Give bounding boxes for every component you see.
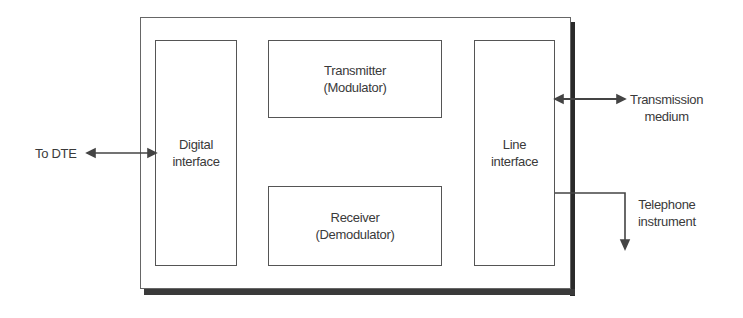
telephone-connector-line (555, 193, 625, 242)
connector-layer (0, 0, 743, 318)
telephone-instrument-label: Telephone instrument (638, 196, 696, 230)
transmission-medium-label: Transmission medium (630, 91, 703, 125)
arrowhead-left-icon (87, 149, 95, 157)
dte-label: To DTE (35, 145, 77, 162)
arrowhead-right-icon (148, 149, 156, 157)
arrowhead-down-icon (621, 240, 629, 249)
arrowhead-left-icon (555, 95, 563, 103)
arrowhead-right-icon (617, 95, 625, 103)
